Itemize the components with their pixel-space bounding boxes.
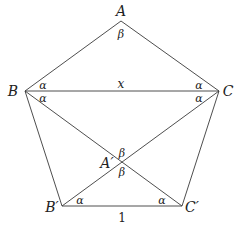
- angle-label: α: [195, 79, 203, 92]
- edge-B-Bp: [25, 91, 62, 206]
- vertex-label-Cp: C′: [185, 199, 200, 215]
- angle-label: α: [39, 79, 47, 92]
- pentagon-diagram: ABCB′C′A′ βααααββαα x1: [0, 0, 240, 230]
- vertex-label-C: C: [223, 83, 234, 99]
- angle-labels: βααααββαα: [39, 28, 203, 207]
- length-label-BC: x: [118, 77, 125, 91]
- length-label-B'C': 1: [118, 211, 126, 225]
- vertex-label-Ap: A′: [98, 155, 114, 171]
- angle-label: β: [117, 28, 124, 41]
- vertex-label-A: A: [114, 3, 126, 19]
- edge-A-C: [121, 21, 219, 91]
- angle-label: α: [76, 194, 84, 207]
- angle-label: β: [118, 147, 125, 160]
- edge-C-Bp: [62, 91, 219, 206]
- angle-label: α: [158, 194, 166, 207]
- edge-C-Cp: [182, 91, 219, 206]
- edge-B-Cp: [25, 91, 182, 206]
- angle-label: α: [195, 92, 203, 105]
- angle-label: α: [39, 92, 47, 105]
- vertex-label-B: B: [7, 83, 18, 99]
- angle-label: β: [118, 166, 125, 179]
- vertex-label-Bp: B′: [44, 199, 59, 215]
